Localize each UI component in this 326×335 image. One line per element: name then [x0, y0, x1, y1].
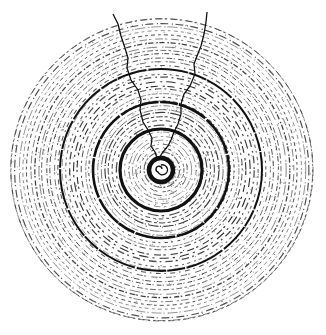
stipple-dot	[104, 155, 105, 156]
stipple-dot	[222, 158, 223, 159]
stipple-dot	[163, 147, 164, 148]
stipple-dot	[193, 203, 194, 204]
stipple-dot	[146, 220, 147, 221]
stipple-dot	[25, 158, 26, 159]
stipple-dot	[61, 107, 62, 108]
stipple-dot	[283, 144, 284, 145]
stipple-dot	[129, 162, 130, 163]
stipple-dot	[190, 150, 191, 151]
stipple-dot	[155, 200, 156, 201]
stipple-dot	[283, 183, 284, 184]
stipple-dot	[265, 101, 266, 102]
stipple-dot	[42, 231, 43, 232]
stipple-dot	[292, 125, 293, 126]
growth-ring	[55, 62, 271, 278]
stipple-dot	[190, 39, 191, 40]
stipple-dot	[164, 109, 165, 110]
stipple-dot	[215, 203, 216, 204]
stipple-dot	[26, 227, 27, 228]
stipple-dot	[206, 151, 207, 152]
stipple-dot	[73, 157, 74, 158]
growth-ring	[39, 47, 286, 294]
stipple-dot	[13, 161, 14, 162]
stipple-dot	[230, 61, 231, 62]
stipple-dot	[210, 265, 211, 266]
stipple-dot	[212, 165, 213, 166]
stipple-dot	[152, 57, 153, 58]
stipple-dot	[188, 155, 189, 156]
stipple-dot	[184, 113, 185, 114]
stipple-dot	[239, 197, 240, 198]
stipple-dot	[190, 98, 191, 99]
stipple-dot	[169, 183, 170, 184]
stipple-dot	[261, 269, 262, 270]
stipple-dot	[191, 129, 192, 130]
stipple-dot	[136, 301, 137, 302]
stipple-dot	[40, 185, 41, 186]
stipple-dot	[214, 231, 215, 232]
stipple-dot	[180, 51, 181, 52]
stipple-dot	[91, 172, 92, 173]
stipple-dot	[112, 150, 113, 151]
stipple-dot	[149, 241, 150, 242]
stipple-dot	[112, 210, 113, 211]
stipple-dot	[282, 138, 283, 139]
outer-edge	[11, 19, 313, 321]
stipple-dot	[217, 166, 218, 167]
stipple-dot	[185, 25, 186, 26]
stipple-dot	[132, 259, 133, 260]
stipple-dot	[134, 222, 135, 223]
stipple-dot	[245, 162, 246, 163]
stipple-dot	[181, 119, 182, 120]
stipple-dot	[151, 304, 152, 305]
stipple-dot	[187, 166, 188, 167]
stipple-dot	[117, 128, 118, 129]
stipple-dot	[179, 258, 180, 259]
stipple-dot	[135, 54, 136, 55]
stipple-dot	[183, 197, 184, 198]
stipple-dot	[118, 182, 119, 183]
stipple-dot	[162, 227, 163, 228]
stipple-dot	[174, 119, 175, 120]
stipple-dot	[243, 203, 244, 204]
stipple-dot	[239, 109, 240, 110]
stipple-dot	[147, 163, 148, 164]
stipple-dot	[81, 201, 82, 202]
stipple-dot	[171, 232, 172, 233]
stipple-dot	[114, 200, 115, 201]
stipple-dot	[23, 143, 24, 144]
stipple-dot	[267, 124, 268, 125]
stipple-dot	[175, 177, 176, 178]
stipple-dot	[59, 85, 60, 86]
stipple-dot	[113, 147, 114, 148]
stipple-dot	[51, 184, 52, 185]
stipple-dot	[164, 207, 165, 208]
stipple-dot	[182, 92, 183, 93]
stipple-dot	[225, 35, 226, 36]
stipple-dot	[240, 198, 241, 199]
stipple-dot	[146, 175, 147, 176]
stipple-dot	[92, 45, 93, 46]
stipple-dot	[162, 204, 163, 205]
stipple-dot	[284, 183, 285, 184]
stipple-dot	[38, 152, 39, 153]
stipple-dot	[203, 226, 204, 227]
stipple-dot	[177, 54, 178, 55]
stipple-dot	[226, 219, 227, 220]
stipple-dot	[241, 74, 242, 75]
stipple-dot	[159, 120, 160, 121]
stipple-dot	[160, 185, 161, 186]
stipple-dot	[68, 180, 69, 181]
stipple-dot	[77, 265, 78, 266]
stipple-dot	[166, 150, 167, 151]
stipple-dot	[157, 221, 158, 222]
stipple-dot	[126, 57, 127, 58]
stipple-dot	[146, 149, 147, 150]
stipple-dot	[208, 152, 209, 153]
stipple-dot	[250, 96, 251, 97]
stipple-dot	[185, 32, 186, 33]
stipple-dot	[187, 75, 188, 76]
stipple-dot	[39, 166, 40, 167]
stipple-dot	[204, 58, 205, 59]
stipple-dot	[195, 86, 196, 87]
